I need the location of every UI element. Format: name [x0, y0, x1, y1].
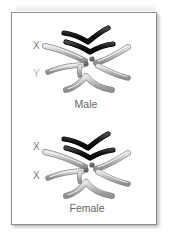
female-x-label-2: X — [33, 170, 40, 181]
chromosome-diagram: X Y Male X X Female — [0, 0, 173, 236]
female-chromosome-set — [45, 134, 128, 196]
male-chromosome-set — [45, 28, 128, 90]
female-caption: Female — [69, 202, 104, 214]
female-x-label-1: X — [33, 141, 40, 152]
male-y-label: Y — [33, 68, 40, 79]
male-caption: Male — [75, 98, 98, 110]
male-x-label: X — [33, 40, 40, 51]
